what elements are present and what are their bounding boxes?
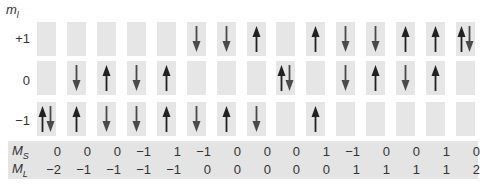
orbital-box bbox=[336, 22, 355, 56]
orbital-box bbox=[456, 61, 475, 95]
ms-value: −1 bbox=[330, 144, 360, 159]
orbital-box bbox=[456, 102, 475, 136]
spin-down-arrow-icon bbox=[132, 65, 141, 91]
orbital-box bbox=[127, 22, 146, 56]
spin-up-arrow-icon bbox=[401, 26, 410, 52]
orbital-box bbox=[217, 22, 236, 56]
ms-value: −1 bbox=[121, 144, 151, 159]
spin-up-arrow-icon bbox=[311, 26, 320, 52]
spin-down-arrow-icon bbox=[222, 26, 231, 52]
ms-value: 0 bbox=[270, 144, 300, 159]
ml-value: 1 bbox=[390, 162, 420, 177]
spin-up-arrow-icon bbox=[222, 106, 231, 132]
ml-value: 0 bbox=[300, 162, 330, 177]
orbital-box bbox=[37, 22, 56, 56]
ms-value: 1 bbox=[420, 144, 450, 159]
spin-down-arrow-icon bbox=[132, 106, 141, 132]
spin-up-arrow-icon bbox=[311, 106, 320, 132]
orbital-box bbox=[426, 102, 445, 136]
orbital-box bbox=[67, 102, 86, 136]
spin-down-arrow-icon bbox=[371, 26, 380, 52]
spin-down-arrow-icon bbox=[102, 106, 111, 132]
orbital-box bbox=[247, 61, 266, 95]
orbital-box bbox=[187, 22, 206, 56]
ms-label-main: M bbox=[12, 143, 23, 158]
orbital-box bbox=[396, 102, 415, 136]
ms-value: 0 bbox=[31, 144, 61, 159]
orbital-box bbox=[336, 61, 355, 95]
ml-value: 0 bbox=[241, 162, 271, 177]
spin-up-arrow-icon bbox=[72, 106, 81, 132]
ml-value: 0 bbox=[270, 162, 300, 177]
spin-up-arrow-icon bbox=[162, 65, 171, 91]
orbital-box bbox=[97, 22, 116, 56]
row-label-zero: 0 bbox=[0, 73, 30, 88]
orbital-box bbox=[127, 102, 146, 136]
ml-value: 1 bbox=[330, 162, 360, 177]
orbital-box bbox=[456, 22, 475, 56]
orbital-box bbox=[396, 22, 415, 56]
ms-value: 0 bbox=[390, 144, 420, 159]
row-label-minus1: −1 bbox=[0, 113, 30, 128]
orbital-box bbox=[127, 61, 146, 95]
ml-value: −2 bbox=[31, 162, 61, 177]
spin-down-arrow-icon bbox=[401, 65, 410, 91]
ms-value: 0 bbox=[211, 144, 241, 159]
spin-down-arrow-icon bbox=[72, 65, 81, 91]
ms-value: 0 bbox=[61, 144, 91, 159]
ml-value: 2 bbox=[450, 162, 480, 177]
orbital-box bbox=[396, 61, 415, 95]
ms-value: −1 bbox=[181, 144, 211, 159]
axis-title-main: m bbox=[6, 2, 17, 17]
ml-value: 0 bbox=[181, 162, 211, 177]
spin-up-arrow-icon bbox=[162, 106, 171, 132]
orbital-box bbox=[67, 61, 86, 95]
axis-title-sub: l bbox=[17, 10, 19, 20]
spin-down-arrow-icon bbox=[341, 26, 350, 52]
orbital-box bbox=[276, 102, 295, 136]
ml-label-main: M bbox=[12, 161, 23, 176]
orbital-box bbox=[187, 102, 206, 136]
orbital-box bbox=[157, 102, 176, 136]
spin-down-arrow-icon bbox=[252, 106, 261, 132]
spin-down-arrow-icon bbox=[192, 26, 201, 52]
ms-value: 1 bbox=[151, 144, 181, 159]
spin-down-arrow-icon bbox=[285, 65, 294, 91]
ml-axis-title: ml bbox=[6, 2, 19, 20]
orbital-box bbox=[217, 61, 236, 95]
orbital-box bbox=[426, 61, 445, 95]
orbital-box bbox=[366, 61, 385, 95]
orbital-box bbox=[306, 61, 325, 95]
spin-up-arrow-icon bbox=[431, 65, 440, 91]
spin-up-arrow-icon bbox=[102, 65, 111, 91]
orbital-box bbox=[247, 22, 266, 56]
ms-value: 0 bbox=[241, 144, 271, 159]
ml-value: −1 bbox=[61, 162, 91, 177]
spin-down-arrow-icon bbox=[465, 26, 474, 52]
orbital-box bbox=[306, 102, 325, 136]
orbital-box bbox=[37, 61, 56, 95]
orbital-box bbox=[366, 102, 385, 136]
spin-up-arrow-icon bbox=[431, 26, 440, 52]
orbital-box bbox=[187, 61, 206, 95]
orbital-box bbox=[97, 61, 116, 95]
orbital-box bbox=[426, 22, 445, 56]
orbital-box bbox=[247, 102, 266, 136]
orbital-box bbox=[276, 22, 295, 56]
spin-up-arrow-icon bbox=[371, 65, 380, 91]
orbital-box bbox=[306, 22, 325, 56]
ms-value: 1 bbox=[300, 144, 330, 159]
orbital-box bbox=[157, 61, 176, 95]
ml-value: −1 bbox=[151, 162, 181, 177]
ml-label: ML bbox=[12, 161, 28, 179]
spin-down-arrow-icon bbox=[192, 106, 201, 132]
ms-label-sub: S bbox=[23, 151, 29, 161]
ml-value: 1 bbox=[420, 162, 450, 177]
row-label-plus1: +1 bbox=[0, 31, 30, 46]
orbital-box bbox=[67, 22, 86, 56]
spin-down-arrow-icon bbox=[46, 106, 55, 132]
spin-up-arrow-icon bbox=[252, 26, 261, 52]
ms-value: 0 bbox=[360, 144, 390, 159]
ml-label-sub: L bbox=[23, 169, 28, 179]
spin-down-arrow-icon bbox=[341, 65, 350, 91]
